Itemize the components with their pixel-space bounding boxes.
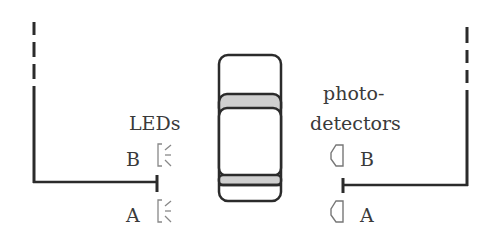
detector-b-icon: [331, 145, 343, 166]
encoder-object: [219, 55, 281, 201]
photodetectors-label-line2: detectors: [310, 112, 401, 134]
leds-label: LEDs: [129, 112, 180, 134]
detector-a-label: A: [359, 204, 374, 226]
led-b-label: B: [126, 148, 140, 170]
led-a-icon: [158, 200, 171, 222]
detector-b-label: B: [360, 148, 374, 170]
led-a-label: A: [125, 204, 140, 226]
photodetectors-label-line1: photo-: [323, 82, 384, 104]
led-b-icon: [158, 144, 171, 166]
optical-sensor-diagram: LEDs B A photo- detectors B A: [0, 0, 493, 243]
detector-a-icon: [331, 201, 343, 222]
shaded-band-bottom: [219, 175, 281, 185]
